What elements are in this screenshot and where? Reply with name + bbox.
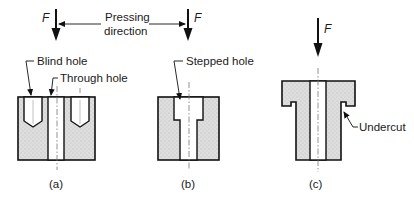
force-arrow-a bbox=[52, 9, 61, 41]
label-through-hole: Through hole bbox=[60, 72, 128, 84]
part-a-blind-through-holes bbox=[18, 88, 95, 160]
force-label-b: F bbox=[194, 11, 202, 25]
powder-compaction-diagram: F F F Pressing direction Blind hole Thro… bbox=[0, 0, 414, 198]
pressing-direction-label-line2: direction bbox=[104, 25, 147, 37]
caption-a: (a) bbox=[49, 178, 63, 190]
force-arrow-c bbox=[314, 18, 323, 57]
part-b-stepped-hole bbox=[158, 97, 219, 160]
caption-c: (c) bbox=[309, 178, 323, 190]
label-stepped-hole: Stepped hole bbox=[186, 55, 254, 67]
leader-undercut bbox=[344, 112, 358, 127]
leader-stepped-hole bbox=[174, 61, 183, 99]
label-undercut: Undercut bbox=[359, 121, 406, 133]
force-label-a: F bbox=[42, 11, 50, 25]
force-label-c: F bbox=[324, 22, 332, 36]
force-arrow-b bbox=[184, 9, 193, 41]
pressing-direction-label-line1: Pressing bbox=[105, 11, 150, 23]
part-c-undercut bbox=[282, 81, 355, 160]
leader-blind-hole bbox=[26, 61, 34, 95]
caption-b: (b) bbox=[181, 178, 195, 190]
label-blind-hole: Blind hole bbox=[37, 55, 88, 67]
